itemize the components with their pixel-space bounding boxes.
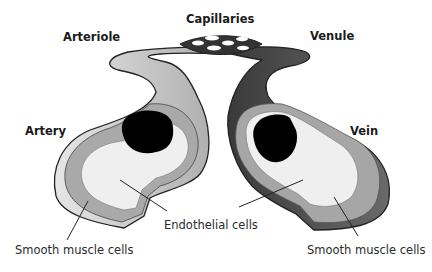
label-capillaries: Capillaries — [186, 14, 254, 26]
label-smooth-muscle-left: Smooth muscle cells — [15, 245, 134, 257]
label-arteriole: Arteriole — [63, 32, 120, 44]
label-artery: Artery — [25, 126, 66, 138]
label-vein: Vein — [350, 126, 378, 138]
label-venule: Venule — [310, 31, 354, 43]
label-smooth-muscle-right: Smooth muscle cells — [307, 245, 426, 257]
artery-shape — [54, 47, 232, 228]
vein-shape — [228, 47, 390, 230]
label-endothelial-cells: Endothelial cells — [164, 220, 258, 232]
